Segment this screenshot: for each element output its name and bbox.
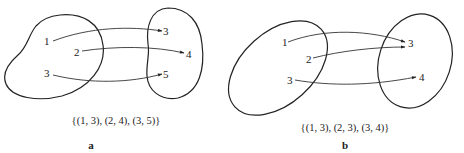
panel-a-domain-1: 1 (44, 35, 50, 47)
panel-a-codomain-set (147, 8, 203, 98)
panel-b-domain-3: 3 (287, 74, 293, 86)
panel-a-label: a (88, 139, 94, 151)
panel-a-domain-set (5, 15, 104, 99)
panel-b-domain-1: 1 (282, 36, 288, 48)
panel-b-codomain-set (366, 4, 464, 118)
relations-diagram: 1 2 3 3 4 5 {(1, 3), (2, 4), (3, 5)} a 1… (0, 0, 464, 153)
panel-b-codomain-4: 4 (419, 71, 425, 83)
panel-a: 1 2 3 3 4 5 {(1, 3), (2, 4), (3, 5)} a (5, 8, 203, 151)
panel-b-codomain-3: 3 (408, 37, 414, 49)
panel-b-domain-2: 2 (306, 53, 312, 65)
panel-b-arrow-1-3 (288, 32, 405, 42)
panel-a-arrow-1-3 (53, 28, 162, 41)
panel-b-set-notation: {(1, 3), (2, 3), (3, 4)} (301, 122, 390, 134)
panel-a-domain-2: 2 (74, 46, 80, 58)
panel-b-domain-set (211, 2, 345, 133)
panel-a-arrow-3-5 (53, 74, 162, 81)
panel-a-domain-3: 3 (44, 67, 50, 79)
panel-a-codomain-4: 4 (186, 48, 192, 60)
panel-a-codomain-3: 3 (163, 25, 169, 37)
panel-a-set-notation: {(1, 3), (2, 4), (3, 5)} (72, 115, 161, 127)
panel-b: 1 2 3 3 4 {(1, 3), (2, 3), (3, 4)} b (211, 2, 464, 151)
panel-b-label: b (342, 139, 348, 151)
panel-a-arrow-2-4 (82, 47, 184, 53)
panel-a-codomain-5: 5 (163, 68, 169, 80)
